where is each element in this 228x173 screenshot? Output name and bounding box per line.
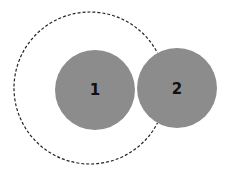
venn-diagram: 1 2 (0, 0, 228, 173)
circle-1-label: 1 (90, 81, 100, 99)
circle-2-label: 2 (172, 80, 182, 98)
